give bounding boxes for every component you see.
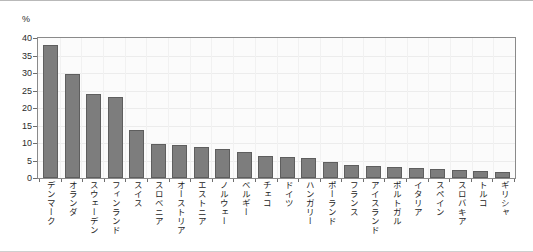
x-axis-tick-label: スロベニア <box>153 181 162 226</box>
x-axis-tick-mark <box>363 179 364 182</box>
bar <box>108 97 123 178</box>
bar-slot <box>212 38 234 178</box>
x-axis-tick-label: フィンランド <box>110 181 119 235</box>
x-axis-tick-label: スペイン <box>434 181 443 217</box>
bar <box>387 167 402 178</box>
x-axis-tick-label: チェコ <box>261 181 270 208</box>
y-axis-tick-label: 35 <box>22 51 32 60</box>
bar <box>172 145 187 178</box>
bar-slot <box>320 38 342 178</box>
bar-slot <box>83 38 105 178</box>
bar-slot <box>427 38 449 178</box>
x-axis-tick-label: ノルウェー <box>218 181 227 226</box>
x-axis-label-slot: オランダ <box>61 181 83 251</box>
bar <box>65 74 80 178</box>
x-axis-tick-mark <box>449 179 450 182</box>
x-axis-tick-mark <box>212 179 213 182</box>
y-axis: 0510152025303540 <box>0 37 37 180</box>
y-axis-tick-label: 0 <box>27 174 32 183</box>
x-axis-label-slot: スイス <box>125 181 147 251</box>
x-axis-tick-mark <box>341 179 342 182</box>
y-axis-tick-label: 20 <box>22 104 32 113</box>
x-axis-label-slot: ドイツ <box>277 181 299 251</box>
x-axis-tick-mark <box>39 179 40 182</box>
x-axis-tick-mark <box>298 179 299 182</box>
bar-slot <box>384 38 406 178</box>
bar <box>43 45 58 178</box>
x-axis-tick-mark <box>406 179 407 182</box>
bar-slot <box>126 38 148 178</box>
x-axis-label-slot: デンマーク <box>39 181 61 251</box>
bar-slot <box>105 38 127 178</box>
x-axis-tick-label: ポルトガル <box>391 181 400 226</box>
x-axis-tick-label: エストニア <box>196 181 205 226</box>
y-axis-tick-label: 10 <box>22 139 32 148</box>
x-axis-label-slot: スロベニア <box>147 181 169 251</box>
x-axis-tick-label: スロバキア <box>456 181 465 226</box>
y-axis-tick-label: 30 <box>22 69 32 78</box>
x-axis-label-slot: フィンランド <box>104 181 126 251</box>
bar <box>430 169 445 178</box>
x-axis-tick-label: スウェーデン <box>88 181 97 235</box>
bar <box>237 152 252 178</box>
x-axis-tick-label: ベルギー <box>240 181 249 217</box>
y-axis-tick-label: 25 <box>22 86 32 95</box>
bar-slot <box>191 38 213 178</box>
bar-series <box>38 38 515 178</box>
x-axis-tick-label: オランダ <box>67 181 76 217</box>
x-axis-tick-mark <box>147 179 148 182</box>
x-axis-tick-mark <box>384 179 385 182</box>
x-axis-label-slot: チェコ <box>255 181 277 251</box>
bar-slot <box>62 38 84 178</box>
plot-area <box>37 37 516 179</box>
x-axis-tick-label: ポーランド <box>326 181 335 226</box>
x-axis-tick-label: デンマーク <box>45 181 54 226</box>
y-axis-unit-label: % <box>22 14 30 24</box>
bar-slot <box>492 38 514 178</box>
bar-slot <box>148 38 170 178</box>
x-axis-tick-label: トルコ <box>477 181 486 208</box>
x-axis-label-slot: フランス <box>341 181 363 251</box>
x-axis-tick-mark <box>428 179 429 182</box>
x-axis-label-slot: アイスランド <box>363 181 385 251</box>
x-axis-tick-mark <box>82 179 83 182</box>
bar-slot <box>255 38 277 178</box>
x-axis-label-slot: ポルトガル <box>385 181 407 251</box>
bar <box>151 144 166 178</box>
bar-slot <box>341 38 363 178</box>
x-axis-label-slot: スペイン <box>428 181 450 251</box>
bar <box>452 170 467 178</box>
bar <box>301 158 316 178</box>
y-axis-tick-label: 15 <box>22 121 32 130</box>
x-axis-tick-mark <box>492 179 493 182</box>
x-axis-tick-mark <box>169 179 170 182</box>
x-axis-tick-label: アイスランド <box>369 181 378 235</box>
x-axis-tick-mark <box>61 179 62 182</box>
x-axis-label-slot: ベルギー <box>233 181 255 251</box>
bar <box>323 162 338 178</box>
bar <box>409 168 424 178</box>
bar-slot <box>40 38 62 178</box>
x-axis-tick-mark <box>255 179 256 182</box>
x-axis-tick-label: イタリア <box>412 181 421 217</box>
bar <box>473 171 488 178</box>
x-axis-tick-mark <box>233 179 234 182</box>
x-axis-tick-mark <box>104 179 105 182</box>
x-axis-label-slot: スウェーデン <box>82 181 104 251</box>
x-axis-tick-mark <box>125 179 126 182</box>
x-axis-tick-label: ハンガリー <box>304 181 313 226</box>
bar-slot <box>449 38 471 178</box>
bar-slot <box>298 38 320 178</box>
x-axis-label-slot: ハンガリー <box>298 181 320 251</box>
bar-slot <box>169 38 191 178</box>
bar-slot <box>406 38 428 178</box>
x-axis-tick-mark <box>471 179 472 182</box>
x-axis-label-slot: ノルウェー <box>212 181 234 251</box>
x-axis-label-slot: オーストリア <box>169 181 191 251</box>
bar <box>280 157 295 178</box>
x-axis-label-slot: イタリア <box>406 181 428 251</box>
x-axis-labels: デンマークオランダスウェーデンフィンランドスイススロベニアオーストリアエストニア… <box>37 181 516 251</box>
y-axis-tick-label: 40 <box>22 34 32 43</box>
chart-figure: % 0510152025303540 デンマークオランダスウェーデンフィンランド… <box>0 0 533 252</box>
x-axis-tick-mark <box>277 179 278 182</box>
